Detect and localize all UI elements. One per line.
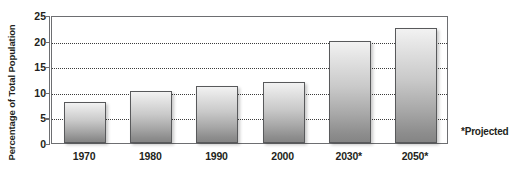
y-axis-tick-mark bbox=[45, 93, 50, 94]
projected-footnote: *Projected bbox=[461, 126, 508, 137]
bar-2050 bbox=[395, 28, 437, 143]
y-axis-tick-mark bbox=[45, 118, 50, 119]
x-axis-tick-label: 1990 bbox=[186, 150, 246, 162]
y-axis-tick-label: 10 bbox=[22, 88, 46, 98]
y-axis-tick-label: 25 bbox=[22, 11, 46, 21]
y-axis-tick-label: 0 bbox=[22, 139, 46, 149]
y-axis-tick-labels: 2520151050 bbox=[16, 0, 46, 185]
y-axis-tick-label: 20 bbox=[22, 37, 46, 47]
x-axis-tick-label: 1970 bbox=[54, 150, 114, 162]
bar-1980 bbox=[130, 91, 172, 143]
bar-1990 bbox=[196, 86, 238, 143]
y-axis-tick-label: 5 bbox=[22, 113, 46, 123]
x-axis-tick-label: 2000 bbox=[253, 150, 313, 162]
y-axis-tick-label: 15 bbox=[22, 62, 46, 72]
y-axis-tick-mark bbox=[45, 42, 50, 43]
bar-chart: Percentage of Total Population 252015105… bbox=[0, 0, 521, 185]
bar-2000 bbox=[263, 82, 305, 143]
bars-layer bbox=[52, 17, 447, 143]
y-axis-tick-mark bbox=[45, 67, 50, 68]
bar-1970 bbox=[64, 102, 106, 143]
bar-2030 bbox=[329, 41, 371, 143]
y-axis-tick-mark bbox=[45, 144, 50, 145]
x-axis-tick-label: 2050* bbox=[385, 150, 445, 162]
x-axis-tick-label: 2030* bbox=[319, 150, 379, 162]
plot-area bbox=[51, 16, 448, 144]
x-axis-tick-labels: 19701980199020002030*2050* bbox=[51, 150, 448, 170]
x-axis-tick-label: 1980 bbox=[120, 150, 180, 162]
y-axis-tick-mark bbox=[45, 16, 50, 17]
